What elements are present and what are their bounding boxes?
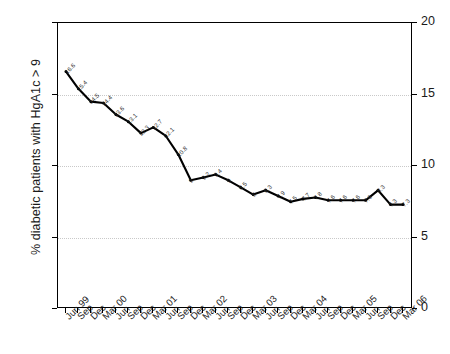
y-axis-left-tick-mark — [52, 165, 57, 166]
y-axis-right-tick-label: 10 — [421, 158, 450, 171]
y-axis-right-tick-mark — [412, 94, 417, 95]
chart-container: % diabetic patients with HgA1c > 9 16.61… — [0, 0, 450, 354]
plot-area: 16.615.414.514.413.613.112.312.712.110.8… — [57, 22, 412, 308]
y-axis-left-tick-mark — [52, 94, 57, 95]
y-axis-right-tick-mark — [412, 165, 417, 166]
data-series-line — [58, 23, 413, 309]
y-axis-right-tick-label: 20 — [421, 15, 450, 28]
y-axis-right-tick-label: 15 — [421, 87, 450, 100]
y-axis-left-tick-mark — [52, 308, 57, 309]
y-axis-right-tick-mark — [412, 237, 417, 238]
y-axis-title: % diabetic patients with HgA1c > 9 — [29, 17, 43, 297]
series-polyline — [66, 72, 403, 205]
y-axis-left-tick-mark — [52, 22, 57, 23]
y-axis-left-tick-mark — [52, 237, 57, 238]
y-axis-right-tick-label: 5 — [421, 230, 450, 243]
y-axis-right-tick-mark — [412, 22, 417, 23]
